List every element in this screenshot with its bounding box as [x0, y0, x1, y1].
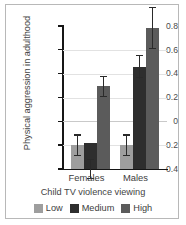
legend-item-high[interactable]: High	[121, 204, 152, 213]
legend: Low Medium High	[6, 201, 180, 215]
error-bar-cap	[74, 155, 81, 156]
legend-label-low: Low	[46, 204, 63, 213]
legend-item-low[interactable]: Low	[34, 204, 63, 213]
bar-males-medium[interactable]	[133, 67, 146, 169]
error-bar-cap	[136, 55, 143, 56]
error-bar-cap	[123, 134, 130, 135]
error-bar-cap	[74, 134, 81, 135]
x-group-label-males: Males	[112, 172, 159, 183]
bar-males-high[interactable]	[146, 28, 159, 169]
error-bar-cap	[100, 96, 107, 97]
legend-swatch-high	[121, 204, 130, 213]
error-bar-cap	[123, 155, 130, 156]
y-axis-title: Physical aggression in adulthood	[20, 13, 34, 153]
figure-frame: Physical aggression in adulthood 0.8 0.6…	[5, 4, 179, 219]
error-bar-cap	[149, 48, 156, 49]
legend-swatch-low	[34, 204, 43, 213]
error-bar-cap	[136, 77, 143, 78]
legend-item-medium[interactable]: Medium	[70, 204, 115, 213]
bar-males-low[interactable]	[120, 50, 133, 169]
error-bar-cap	[87, 159, 94, 160]
error-bar	[126, 134, 127, 155]
error-bar	[103, 76, 104, 97]
plot-area	[63, 26, 167, 169]
error-bar	[77, 134, 78, 155]
legend-label-medium: Medium	[82, 204, 115, 213]
bar-females-low[interactable]	[71, 50, 84, 169]
figure: Physical aggression in adulthood 0.8 0.6…	[0, 0, 186, 225]
error-bar	[152, 7, 153, 49]
error-bar-cap	[149, 7, 156, 8]
x-group-label-females: Females	[63, 172, 110, 183]
bar-females-medium[interactable]	[84, 47, 97, 169]
bar-females-high[interactable]	[97, 86, 110, 169]
error-bar-cap	[100, 76, 107, 77]
error-bar	[139, 55, 140, 79]
legend-label-high: High	[133, 204, 152, 213]
legend-swatch-medium	[70, 204, 79, 213]
x-axis-title: Child TV violence viewing	[6, 187, 180, 197]
